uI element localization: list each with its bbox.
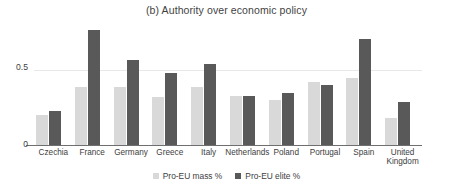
bar-group [73, 22, 112, 145]
x-axis-line [26, 145, 422, 146]
bar-mass[interactable] [308, 82, 320, 145]
bar-elite[interactable] [165, 73, 177, 145]
bar-elite[interactable] [398, 102, 410, 146]
y-tick-label-0.5: 0.5 [2, 62, 28, 72]
bar-elite[interactable] [88, 30, 100, 146]
bar-elite[interactable] [204, 64, 216, 145]
bar-group [150, 22, 189, 145]
bar-mass[interactable] [75, 87, 87, 146]
bar-mass[interactable] [269, 100, 281, 145]
bar-group [228, 22, 267, 145]
bar-group [306, 22, 345, 145]
bar-elite[interactable] [282, 93, 294, 146]
bar-elite[interactable] [127, 60, 139, 146]
legend-swatch-mass [153, 173, 159, 179]
bar-group [112, 22, 151, 145]
bar-mass[interactable] [230, 96, 242, 146]
bar-mass[interactable] [152, 97, 164, 145]
bar-group [189, 22, 228, 145]
bar-elite[interactable] [321, 85, 333, 145]
legend-label-mass: Pro-EU mass % [163, 171, 223, 181]
bar-mass[interactable] [385, 118, 397, 145]
bar-group [34, 22, 73, 145]
chart-title: (b) Authority over economic policy [0, 4, 453, 16]
chart-figure: (b) Authority over economic policy 0.5 0… [0, 0, 453, 191]
bar-elite[interactable] [49, 111, 61, 146]
bar-group [344, 22, 383, 145]
bar-mass[interactable] [191, 87, 203, 146]
chart-legend: Pro-EU mass % Pro-EU elite % [0, 171, 453, 181]
legend-item-mass[interactable]: Pro-EU mass % [153, 171, 223, 181]
legend-item-elite[interactable]: Pro-EU elite % [235, 171, 300, 181]
bar-mass[interactable] [114, 87, 126, 146]
plot-area [34, 22, 422, 145]
legend-swatch-elite [235, 173, 241, 179]
bar-elite[interactable] [243, 96, 255, 146]
bar-elite[interactable] [359, 39, 371, 146]
y-tick-label-0: 0 [2, 139, 28, 149]
bar-group [267, 22, 306, 145]
legend-label-elite: Pro-EU elite % [245, 171, 300, 181]
bar-mass[interactable] [346, 78, 358, 146]
bar-group [383, 22, 422, 145]
bar-mass[interactable] [36, 115, 48, 145]
x-axis-label: United Kingdom [379, 148, 427, 167]
